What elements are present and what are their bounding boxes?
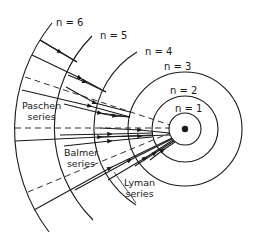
label-n1: n = 1 — [175, 103, 202, 114]
orbit-n6 — [15, 23, 52, 232]
paschen-line1: Paschen — [22, 100, 61, 111]
label-n3: n = 3 — [164, 61, 191, 72]
label-n2: n = 2 — [170, 85, 197, 96]
label-n6: n = 6 — [56, 17, 83, 28]
paschen-line2: series — [22, 111, 61, 122]
nucleus — [182, 126, 188, 132]
label-n4: n = 4 — [145, 46, 172, 57]
balmer-line1: Balmer — [64, 147, 98, 158]
label-n5: n = 5 — [100, 30, 127, 41]
lyman-line2: series — [124, 188, 155, 199]
balmer-line2: series — [64, 158, 98, 169]
lyman-line1: Lyman — [124, 177, 155, 188]
label-paschen-series: Paschen series — [22, 100, 61, 122]
label-balmer-series: Balmer series — [64, 147, 98, 169]
label-lyman-series: Lyman series — [124, 177, 155, 199]
